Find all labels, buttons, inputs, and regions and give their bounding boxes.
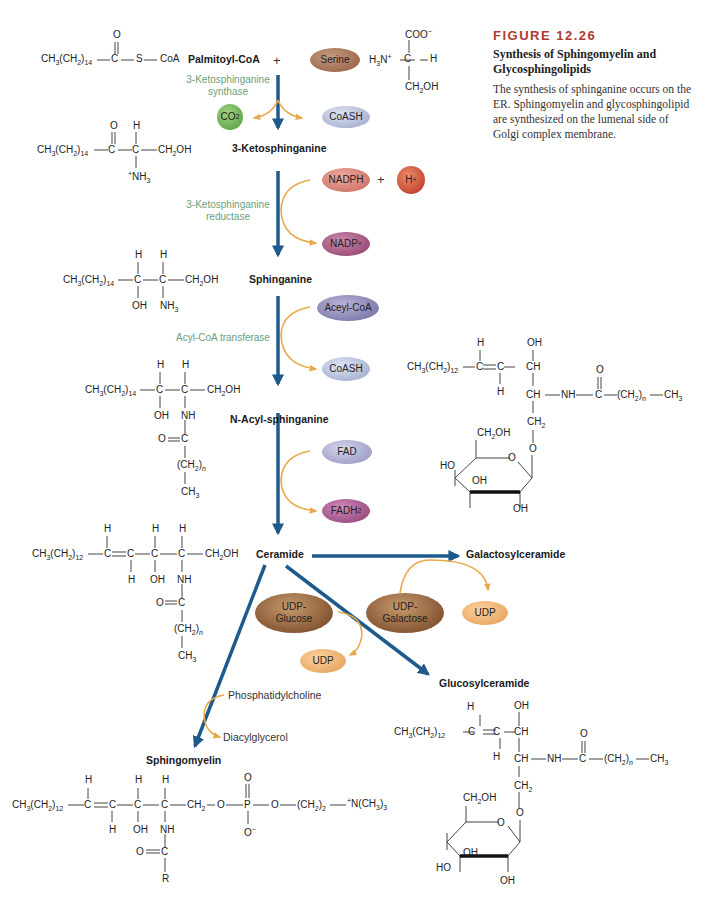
atom-h: H bbox=[182, 359, 189, 370]
atom-ch2oh: CH2OH bbox=[158, 144, 191, 157]
atom-h: H bbox=[467, 701, 474, 712]
atom-h: H bbox=[162, 774, 169, 785]
product-diacylglycerol: Diacylglycerol bbox=[223, 731, 288, 743]
atom-nme3: +N(CH3)3 bbox=[347, 797, 387, 811]
enzyme-ketosphinganine-reductase: 3-Ketosphinganine reductase bbox=[183, 199, 273, 223]
atom-o-minus: O− bbox=[244, 826, 256, 838]
atom-ho: HO bbox=[436, 862, 451, 873]
atom-ch3: CH3 bbox=[178, 650, 196, 663]
atom-o: O bbox=[596, 364, 604, 375]
compound-sphingomyelin: Sphingomyelin bbox=[146, 754, 221, 766]
atom-ch2n: (CH2)n bbox=[177, 459, 206, 472]
udp-galactose-label: Galactose bbox=[382, 613, 427, 625]
serine-c: C bbox=[404, 53, 411, 64]
atom-ch2n: (CH2)n bbox=[604, 753, 633, 766]
compound-sphinganine: Sphinganine bbox=[249, 273, 312, 285]
atom-ch2-2: (CH2)2 bbox=[297, 799, 326, 812]
atom-c: C bbox=[127, 548, 134, 559]
enzyme-label: synthase bbox=[183, 86, 273, 98]
enzyme-acyl-coa-transferase: Acyl-CoA transferase bbox=[176, 332, 270, 344]
enzyme-label: reductase bbox=[183, 211, 273, 223]
atom-c: C bbox=[161, 846, 168, 857]
atom-oh: OH bbox=[150, 574, 165, 585]
cofactor-udp-2: UDP bbox=[300, 649, 346, 673]
glccer-formula: CH3(CH2)12 bbox=[394, 726, 445, 739]
atom-ch2oh: CH2OH bbox=[463, 792, 496, 805]
atom-nh: NH bbox=[181, 410, 195, 421]
atom-ch3: CH3 bbox=[664, 389, 682, 402]
atom-o: O bbox=[580, 728, 588, 739]
udp-label: UDP bbox=[312, 655, 333, 667]
cofactor-nadph: NADPH bbox=[322, 168, 370, 192]
atom-nh: NH bbox=[561, 389, 575, 400]
atom-c: C bbox=[161, 799, 168, 810]
atom-ch: CH bbox=[526, 361, 540, 372]
compound-galactosylceramide: Galactosylceramide bbox=[466, 548, 565, 560]
coash-label: CoASH bbox=[329, 363, 362, 375]
udp-label: UDP bbox=[474, 607, 495, 619]
atom-ch2oh: CH2OH bbox=[205, 548, 238, 561]
atom-nh: NH bbox=[177, 574, 191, 585]
atom-h: H bbox=[477, 337, 484, 348]
atom-oh: OH bbox=[472, 475, 487, 486]
atom-c: C bbox=[468, 726, 475, 737]
atom-oh: OH bbox=[500, 875, 515, 886]
atom-c: C bbox=[493, 726, 500, 737]
cofactor-serine: Serine bbox=[310, 48, 360, 72]
sphinganine-formula: CH3(CH2)14 bbox=[63, 274, 114, 287]
serine-nh3: H3N+ bbox=[369, 53, 391, 67]
atom-r: R bbox=[162, 873, 169, 884]
cofactor-co2: CO2 bbox=[217, 104, 243, 130]
reagent-phosphatidylcholine: Phosphatidylcholine bbox=[228, 689, 321, 701]
cofactor-coash-2: CoASH bbox=[322, 357, 370, 381]
atom-c: C bbox=[595, 389, 602, 400]
cofactor-udp-1: UDP bbox=[462, 601, 508, 625]
coash-label: CoASH bbox=[329, 111, 362, 123]
ketosphinganine-formula: CH3(CH2)14 bbox=[37, 144, 88, 157]
atom-ch2oh: CH2OH bbox=[207, 384, 240, 397]
atom-ch2n: (CH2)n bbox=[617, 389, 646, 402]
atom-ch: CH bbox=[514, 753, 528, 764]
atom-c: C bbox=[109, 799, 116, 810]
atom-o: O bbox=[156, 597, 164, 608]
atom-h: H bbox=[104, 523, 111, 534]
atom-ch2: CH2 bbox=[187, 799, 205, 812]
atom-ch2: CH2 bbox=[527, 416, 545, 429]
palmitoyl-coa-formula: CH3(CH2)14 bbox=[41, 53, 92, 66]
atom-h: H bbox=[128, 574, 135, 585]
atom-c: C bbox=[151, 548, 158, 559]
atom-ch2: CH2 bbox=[514, 780, 532, 793]
atom-ch: CH bbox=[526, 389, 540, 400]
compound-palmitoyl-coa: Palmitoyl-CoA bbox=[188, 53, 260, 65]
atom-o: O bbox=[110, 120, 118, 131]
atom-c: C bbox=[579, 753, 586, 764]
atom-c: C bbox=[159, 274, 166, 285]
atom-c: C bbox=[497, 361, 504, 372]
plus-sign: + bbox=[377, 172, 385, 187]
atom-h: H bbox=[497, 386, 504, 397]
atom-oh: OH bbox=[154, 410, 169, 421]
atom-h: H bbox=[160, 249, 167, 260]
atom-c: C bbox=[132, 144, 139, 155]
atom-o: O bbox=[516, 807, 524, 818]
atom-c: C bbox=[108, 144, 115, 155]
atom-c: C bbox=[181, 384, 188, 395]
atom-o: O bbox=[113, 29, 121, 40]
atom-o: O bbox=[136, 846, 144, 857]
atom-s: S bbox=[136, 53, 143, 64]
atom-ch3: CH3 bbox=[181, 486, 199, 499]
atom-nh3: +NH3 bbox=[128, 170, 150, 184]
atom-h: H bbox=[109, 824, 116, 835]
atom-h: H bbox=[133, 120, 140, 131]
atom-oh: OH bbox=[514, 700, 529, 711]
atom-oh: OH bbox=[463, 847, 478, 858]
cofactor-fad: FAD bbox=[322, 440, 372, 464]
sphingomyelin-formula: CH3(CH2)12 bbox=[12, 799, 63, 812]
ring-o: O bbox=[508, 452, 516, 463]
enzyme-label: 3-Ketosphinganine bbox=[183, 74, 273, 86]
atom-p: P bbox=[244, 799, 251, 810]
cofactor-nadp: NADP+ bbox=[322, 232, 370, 256]
ring-o: O bbox=[497, 817, 505, 828]
udp-glucose-label: UDP- bbox=[276, 601, 313, 613]
atom-h: H bbox=[493, 751, 500, 762]
